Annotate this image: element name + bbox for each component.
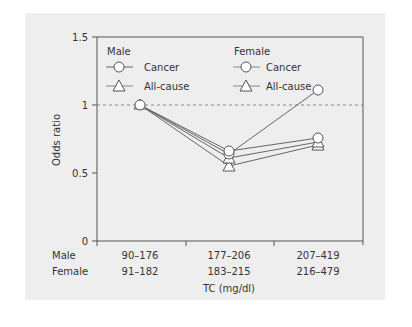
y-tick-0: 0 [82, 236, 88, 247]
legend-circle-icon [241, 62, 251, 72]
line-female-cancer [140, 90, 318, 154]
row-label-female: Female [52, 266, 88, 277]
male-cat-1: 90–176 [122, 250, 159, 261]
male-cat-3: 207–419 [296, 250, 339, 261]
x-axis-label: TC (mg/dl) [202, 283, 255, 294]
male-cat-2: 177–206 [207, 250, 250, 261]
circle-marker [313, 85, 323, 95]
markers [134, 85, 324, 171]
legend-female-allcause: All-cause [266, 81, 311, 92]
circle-marker [313, 133, 323, 143]
row-label-male: Male [52, 250, 76, 261]
y-tick-1.5: 1.5 [72, 32, 88, 43]
legend-circle-icon [114, 62, 124, 72]
line-male-cancer [140, 105, 318, 151]
y-ticks [92, 37, 97, 241]
female-cat-2: 183–215 [207, 266, 250, 277]
legend-female: Female Cancer All-cause [233, 46, 311, 92]
x-ticks [97, 241, 274, 246]
y-tick-0.5: 0.5 [72, 168, 88, 179]
female-cat-1: 91–182 [122, 266, 159, 277]
circle-marker [135, 100, 145, 110]
legend-female-title: Female [234, 46, 270, 57]
legend-female-cancer: Cancer [266, 62, 302, 73]
y-axis-label: Odds ratio [51, 114, 62, 166]
female-cat-3: 216–479 [296, 266, 339, 277]
circle-marker [224, 146, 234, 156]
y-tick-1: 1 [82, 100, 88, 111]
chart-svg: 1.5 1 0.5 0 Odds ratio Male Cancer All-c… [0, 0, 412, 327]
legend-male: Male Cancer All-cause [106, 46, 189, 92]
legend-male-allcause: All-cause [144, 81, 189, 92]
legend-male-title: Male [107, 46, 131, 57]
legend-male-cancer: Cancer [144, 62, 180, 73]
